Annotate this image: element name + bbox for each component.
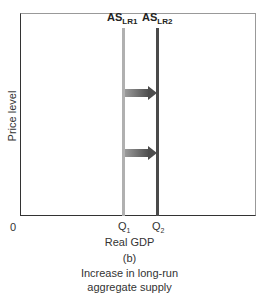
arrow-shaft bbox=[125, 149, 149, 157]
caption-line-2: aggregate supply bbox=[0, 281, 259, 293]
as-lr2-label-sub: LR2 bbox=[157, 17, 172, 26]
arrow-head bbox=[148, 86, 157, 100]
as-lr2-curve bbox=[156, 28, 159, 216]
arrow-head bbox=[148, 146, 157, 160]
x-tick-q2: Q2 bbox=[152, 220, 164, 234]
x-tick-q2-main: Q bbox=[152, 220, 161, 232]
as-lr2-label: ASLR2 bbox=[142, 11, 172, 26]
panel-label: (b) bbox=[0, 252, 259, 264]
x-axis-label: Real GDP bbox=[0, 236, 259, 248]
x-tick-q1-main: Q bbox=[118, 220, 127, 232]
shift-right-arrow-icon bbox=[125, 146, 157, 160]
as-lr1-label-sub: LR1 bbox=[122, 17, 137, 26]
x-tick-q1: Q1 bbox=[118, 220, 130, 234]
as-lr2-label-main: AS bbox=[142, 11, 157, 23]
arrow-shaft bbox=[125, 89, 149, 97]
as-lr1-label-main: AS bbox=[107, 11, 122, 23]
plot-frame bbox=[20, 13, 256, 216]
caption-line-1: Increase in long-run bbox=[0, 267, 259, 279]
as-lr1-curve bbox=[122, 28, 125, 216]
x-tick-q1-sub: 1 bbox=[127, 227, 131, 234]
x-tick-q2-sub: 2 bbox=[161, 227, 165, 234]
as-lr1-label: ASLR1 bbox=[107, 11, 137, 26]
shift-right-arrow-icon bbox=[125, 86, 157, 100]
y-axis-label: Price level bbox=[6, 76, 18, 156]
origin-label: 0 bbox=[10, 221, 16, 233]
